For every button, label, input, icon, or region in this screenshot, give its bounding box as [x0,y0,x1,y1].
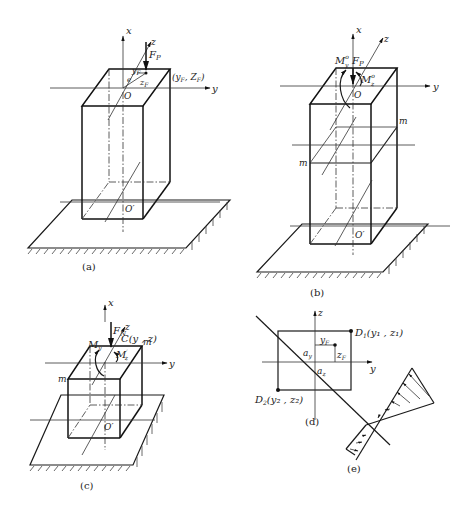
x-axis-label: x [356,24,362,35]
y-axis-label: y [432,81,439,92]
y-axis-label: y [369,363,376,374]
force-label: FP [148,49,161,62]
origin-label: O [354,90,362,100]
point-D1 [349,329,353,333]
ground-hatch [30,402,162,471]
point-coords-label: (yF, ZF) [172,72,205,83]
yF-label: yF [131,66,142,76]
point-C-label: C(y , z) [121,333,157,344]
section-m-right-label: m [143,337,152,347]
D2-label: D2(y₂ , z₂) [254,394,303,406]
caption-b: (b) [310,287,324,298]
ground-plate [257,224,428,272]
moment-y-label: Moy [334,53,349,69]
stress-baseline [356,368,412,460]
caption-c: (c) [80,480,94,491]
z-axis-label: z [317,308,323,318]
point-D2 [276,388,280,392]
stress-arrows [350,374,429,451]
yF-label: yF [319,335,330,346]
moment-y-arc [340,70,350,108]
panel-a: x y z FP yF zF e O (yF, ZF) O′ (a) [28,25,230,272]
origin-label: O [124,91,132,101]
z-axis [330,38,383,130]
moment-z-label: M′z [115,348,129,361]
base-origin-label: O′ [355,230,364,240]
ground-plate [30,395,164,465]
zF-label: zF [336,350,347,361]
section-m-right-label: m [399,116,408,126]
section-m-left-label: m [58,374,67,384]
caption-a: (a) [82,261,96,272]
zF-label: zF [139,78,149,88]
panel-b: x y z Moy FP Moz O m m O′ (b) [257,24,450,298]
panel-d: z y D1(y₁ , z₁) D2(y₂ , z₂) yF zF ay az … [254,308,403,445]
ay-label: ay [303,348,312,360]
ground-hatch [257,226,424,278]
moment-z-label: Moz [360,72,375,87]
x-axis-label: x [126,25,132,36]
z-axis-label: z [150,37,156,47]
panel-c: x y z FN C(y , z) My M′z m m O′ (c) [30,297,175,491]
az-label: az [317,366,326,377]
load-point [333,343,337,347]
stress-envelope-compression [346,425,366,449]
D1-label: D1(y₁ , z₁) [354,327,403,339]
y-axis-label: y [211,83,218,94]
y-axis-label: y [168,358,175,369]
panel-e: (e) [346,368,434,474]
eccentricity-label: e [127,76,131,84]
base-origin-label: O′ [104,422,113,432]
moment-y-label: My [87,339,102,352]
base-origin-label: O′ [125,204,134,214]
stress-envelope-tension [366,403,434,425]
section-m-left-label: m [299,158,308,168]
z-axis-label: z [383,34,389,44]
caption-e: (e) [347,463,361,474]
caption-d: (d) [305,416,319,427]
x-axis-label: x [108,297,114,308]
eccentric-compression-figure: x y z FP yF zF e O (yF, ZF) O′ (a) [0,0,462,512]
cross-section-rect [278,331,351,390]
